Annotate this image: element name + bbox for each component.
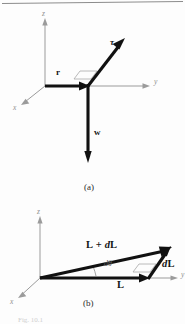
panel-label-b: (b) (83, 299, 94, 308)
panel-a-graphics (21, 18, 150, 163)
vector-label-dL: dL (162, 259, 175, 270)
vector-label-dL-vector-L: L (167, 258, 174, 269)
figure-container: z y x r τ w (a) z y x L + dL L dL dθ (b)… (0, 0, 185, 324)
page-rule-top (2, 2, 183, 4)
axis-label-z-a: z (42, 10, 45, 18)
axis-z-b (37, 216, 42, 278)
vector-r (45, 82, 90, 91)
axis-label-z-b: z (37, 208, 40, 216)
vector-w (84, 84, 91, 163)
figure-graphics (0, 0, 185, 324)
axis-label-x-a: x (13, 104, 16, 112)
axis-x-b (18, 278, 40, 298)
axis-label-y-a: y (154, 78, 157, 86)
angle-arc-dtheta (94, 268, 97, 277)
axis-x-a (21, 86, 45, 105)
panel-b-graphics (18, 216, 178, 298)
axis-z-a (42, 18, 47, 86)
vector-label-L: L (117, 280, 124, 291)
angle-label-dtheta: dθ (104, 260, 112, 268)
vector-label-r: r (56, 68, 60, 77)
panel-label-a: (a) (84, 183, 94, 192)
vector-tau (88, 38, 125, 86)
figure-caption: Fig. 10.1 (18, 317, 43, 324)
vector-label-tau: τ (110, 38, 114, 47)
vector-label-L-plus-dL: L + dL (86, 240, 117, 251)
vector-label-dL-part: L (110, 239, 117, 250)
axis-label-y-b: y (181, 271, 184, 279)
vector-label-w: w (94, 128, 101, 137)
axis-label-x-b: x (10, 298, 13, 306)
